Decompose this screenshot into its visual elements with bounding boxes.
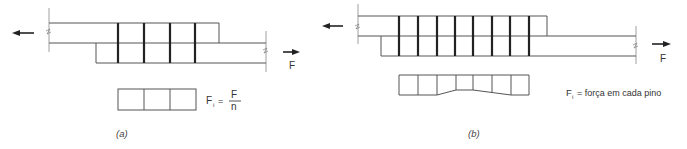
- top-plate-outline: [49, 23, 219, 43]
- figure-b: F F i = força em cada pino (b): [322, 4, 671, 139]
- load-distribution-a: [118, 89, 196, 110]
- formula-denominator: n: [231, 101, 237, 112]
- right-arrowhead-icon: [292, 49, 300, 55]
- left-break-symbol: [355, 24, 360, 29]
- load-distribution-b: [399, 75, 529, 95]
- formula-a: F i = F n: [206, 89, 241, 112]
- caption-b: (b): [468, 128, 480, 139]
- formula-numerator: F: [231, 89, 237, 100]
- force-label-b: F: [660, 53, 666, 64]
- legend-text: = força em cada pino: [577, 88, 661, 98]
- force-label-a: F: [289, 60, 295, 71]
- legend-b: F i = força em cada pino: [566, 87, 661, 100]
- top-plate-outline: [358, 16, 547, 36]
- left-break-symbol: [46, 29, 51, 34]
- caption-a: (a): [116, 128, 128, 139]
- right-break-symbol: [633, 43, 638, 48]
- left-arrowhead-icon: [12, 30, 20, 36]
- legend-subscript: i: [572, 94, 573, 100]
- right-break-symbol: [263, 48, 268, 53]
- left-arrowhead-icon: [322, 23, 330, 29]
- right-arrowhead-icon: [663, 41, 671, 47]
- formula-equals: =: [218, 96, 223, 106]
- lap-joint-diagram: F F i = F n (a): [0, 0, 687, 149]
- bottom-plate-outline: [381, 36, 636, 56]
- formula-lhs: F: [206, 95, 212, 106]
- formula-subscript: i: [213, 102, 214, 108]
- bottom-plate-outline: [96, 43, 266, 63]
- figure-a: F F i = F n (a): [12, 8, 300, 139]
